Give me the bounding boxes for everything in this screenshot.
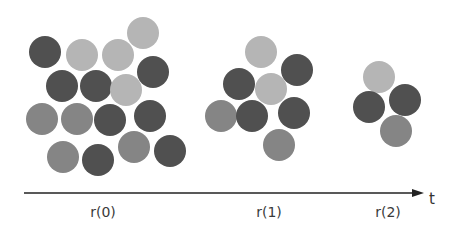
group-label-r0: r(0) xyxy=(90,204,116,220)
particle-light xyxy=(255,73,287,105)
particle-light xyxy=(245,36,277,68)
particle-dark xyxy=(353,91,385,123)
particle-light xyxy=(127,17,159,49)
particle-mid xyxy=(380,115,412,147)
particle-dark xyxy=(223,68,255,100)
particle-dark xyxy=(94,104,126,136)
particle-dark xyxy=(154,135,186,167)
particle-dark xyxy=(281,54,313,86)
particle-mid xyxy=(205,100,237,132)
particle-dark xyxy=(80,70,112,102)
time-axis-label: t xyxy=(429,190,435,208)
group-label-r2: r(2) xyxy=(375,204,401,220)
particle-light xyxy=(363,61,395,93)
particle-dark xyxy=(46,70,78,102)
particle-light xyxy=(110,74,142,106)
particle-groups xyxy=(26,17,421,176)
group-label-r1: r(1) xyxy=(256,204,282,220)
particle-mid xyxy=(61,103,93,135)
particle-dark xyxy=(137,56,169,88)
particle-dark xyxy=(389,84,421,116)
arrow-head-icon xyxy=(412,189,424,197)
particle-dark xyxy=(278,97,310,129)
particle-dark xyxy=(134,100,166,132)
particle-dark xyxy=(82,144,114,176)
particle-light xyxy=(66,39,98,71)
particle-dark xyxy=(29,36,61,68)
particle-mid xyxy=(26,103,58,135)
particle-mid xyxy=(263,129,295,161)
particle-mid xyxy=(47,141,79,173)
particle-group-r0 xyxy=(26,17,186,176)
particle-group-r2 xyxy=(353,61,421,147)
particle-group-r1 xyxy=(205,36,313,161)
particle-light xyxy=(102,39,134,71)
particle-dark xyxy=(236,100,268,132)
particle-mid xyxy=(118,131,150,163)
